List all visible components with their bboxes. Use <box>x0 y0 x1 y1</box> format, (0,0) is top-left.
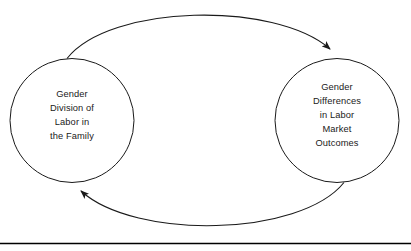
diagram-canvas: Gender Division of Labor in the Family G… <box>0 0 411 251</box>
diagram-graphics <box>0 0 411 251</box>
node-circle-left <box>10 59 134 183</box>
arrow-right-to-left <box>81 183 344 226</box>
node-circle-right <box>275 59 399 183</box>
arrow-left-to-right <box>67 15 330 58</box>
